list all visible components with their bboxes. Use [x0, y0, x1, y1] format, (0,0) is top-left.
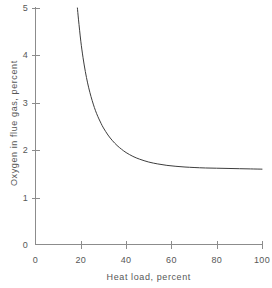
y-axis-title: Oxygen in flue gas, percent — [9, 60, 19, 186]
y-axis-tick-label: 5 — [14, 4, 28, 13]
y-axis-tick-label: 1 — [14, 193, 28, 202]
x-axis-tick-label: 20 — [75, 256, 86, 265]
x-axis-title: Heat load, percent — [107, 272, 191, 282]
x-axis-tick-label: 100 — [254, 256, 270, 265]
x-axis-tick-label: 80 — [211, 256, 222, 265]
figure: 020406080100 012345 Heat load, percent O… — [0, 0, 272, 288]
x-axis-tick-label: 0 — [33, 256, 38, 265]
axes-lines — [35, 7, 262, 245]
x-axis-tick-label: 60 — [166, 256, 177, 265]
data-series-curve — [77, 8, 262, 169]
x-axis-tick-label: 40 — [121, 256, 132, 265]
plot-canvas — [0, 0, 272, 288]
y-axis-tick-label: 0 — [14, 241, 28, 250]
y-axis-tick-label: 4 — [14, 51, 28, 60]
